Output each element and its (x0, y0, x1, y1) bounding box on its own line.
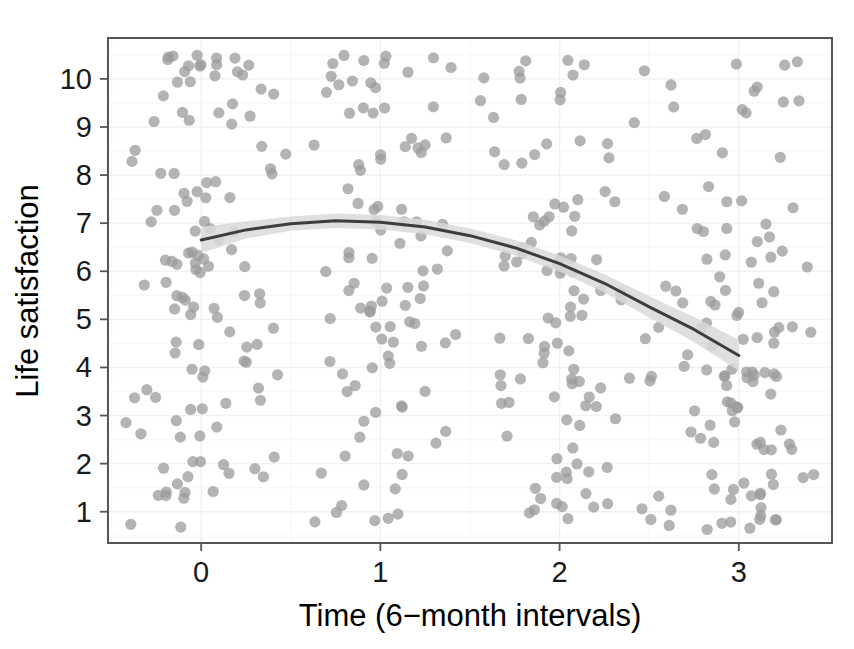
scatter-point (489, 146, 500, 157)
scatter-point (709, 299, 720, 310)
scatter-point (741, 107, 752, 118)
scatter-point (224, 326, 235, 337)
scatter-point (309, 139, 320, 150)
scatter-point (725, 494, 736, 505)
scatter-point (624, 373, 635, 384)
scatter-point (199, 216, 210, 227)
scatter-point (190, 264, 201, 275)
scatter-point (568, 285, 579, 296)
scatter-point (269, 452, 280, 463)
scatter-point (768, 368, 779, 379)
scatter-point (530, 483, 541, 494)
scatter-point (415, 293, 426, 304)
scatter-point (555, 87, 566, 98)
scatter-point (682, 349, 693, 360)
scatter-point (679, 361, 690, 372)
scatter-point (520, 55, 531, 66)
y-tick-label: 2 (76, 448, 92, 480)
scatter-point (529, 504, 540, 515)
scatter-point (760, 218, 771, 229)
scatter-point (765, 252, 776, 263)
scatter-point (419, 139, 430, 150)
scatter-point (543, 211, 554, 222)
scatter-point (268, 323, 279, 334)
scatter-point (787, 202, 798, 213)
scatter-point (659, 191, 670, 202)
scatter-point (258, 471, 269, 482)
scatter-point (432, 263, 443, 274)
scatter-point (744, 523, 755, 534)
scatter-point (515, 373, 526, 384)
scatter-point (779, 60, 790, 71)
scatter-point (705, 420, 716, 431)
scatter-point (775, 152, 786, 163)
scatter-point (358, 416, 369, 427)
scatter-point (367, 253, 378, 264)
scatter-point (195, 456, 206, 467)
scatter-point (186, 364, 197, 375)
x-tick-label: 2 (552, 556, 568, 588)
scatter-point (579, 59, 590, 70)
scatter-point (178, 188, 189, 199)
scatter-point (808, 469, 819, 480)
scatter-point (384, 358, 395, 369)
scatter-point (402, 67, 413, 78)
scatter-point (418, 280, 429, 291)
y-tick-label: 10 (60, 63, 92, 95)
scatter-point (169, 303, 180, 314)
scatter-point (211, 52, 222, 63)
scatter-point (738, 334, 749, 345)
scatter-point (343, 285, 354, 296)
scatter-point (213, 107, 224, 118)
scatter-point (397, 469, 408, 480)
scatter-point (639, 65, 650, 76)
scatter-point (665, 505, 676, 516)
scatter-point (563, 345, 574, 356)
scatter-point (720, 285, 731, 296)
scatter-point (309, 516, 320, 527)
scatter-point (746, 257, 757, 268)
scatter-point (153, 490, 164, 501)
scatter-point (155, 168, 166, 179)
scatter-point (358, 55, 369, 66)
scatter-point (572, 194, 583, 205)
scatter-point (331, 507, 342, 518)
scatter-point (580, 488, 591, 499)
scatter-point (125, 519, 136, 530)
scatter-point (716, 518, 727, 529)
scatter-point (516, 94, 527, 105)
scatter-point (695, 433, 706, 444)
scatter-point (677, 297, 688, 308)
scatter-point (268, 89, 279, 100)
scatter-point (551, 472, 562, 483)
scatter-point (445, 62, 456, 73)
scatter-point (394, 238, 405, 249)
scatter-point (337, 368, 348, 379)
scatter-point (238, 356, 249, 367)
scatter-point (354, 432, 365, 443)
scatter-point (376, 296, 387, 307)
scatter-point (367, 362, 378, 373)
scatter-point (320, 266, 331, 277)
scatter-point (732, 402, 743, 413)
scatter-point (255, 297, 266, 308)
scatter-point (494, 333, 505, 344)
scatter-point (392, 448, 403, 459)
scatter-point (126, 156, 137, 167)
scatter-point (385, 321, 396, 332)
scatter-point (182, 471, 193, 482)
scatter-point (172, 478, 183, 489)
scatter-point (746, 490, 757, 501)
scatter-point (752, 236, 763, 247)
scatter-point (588, 502, 599, 513)
scatter-point (768, 338, 779, 349)
scatter-point (188, 301, 199, 312)
scatter-point (226, 244, 237, 255)
scatter-point (364, 306, 375, 317)
scatter-point (383, 513, 394, 524)
scatter-point (167, 50, 178, 61)
scatter-point (514, 66, 525, 77)
scatter-point (265, 163, 276, 174)
scatter-point (523, 333, 534, 344)
scatter-point (179, 66, 190, 77)
